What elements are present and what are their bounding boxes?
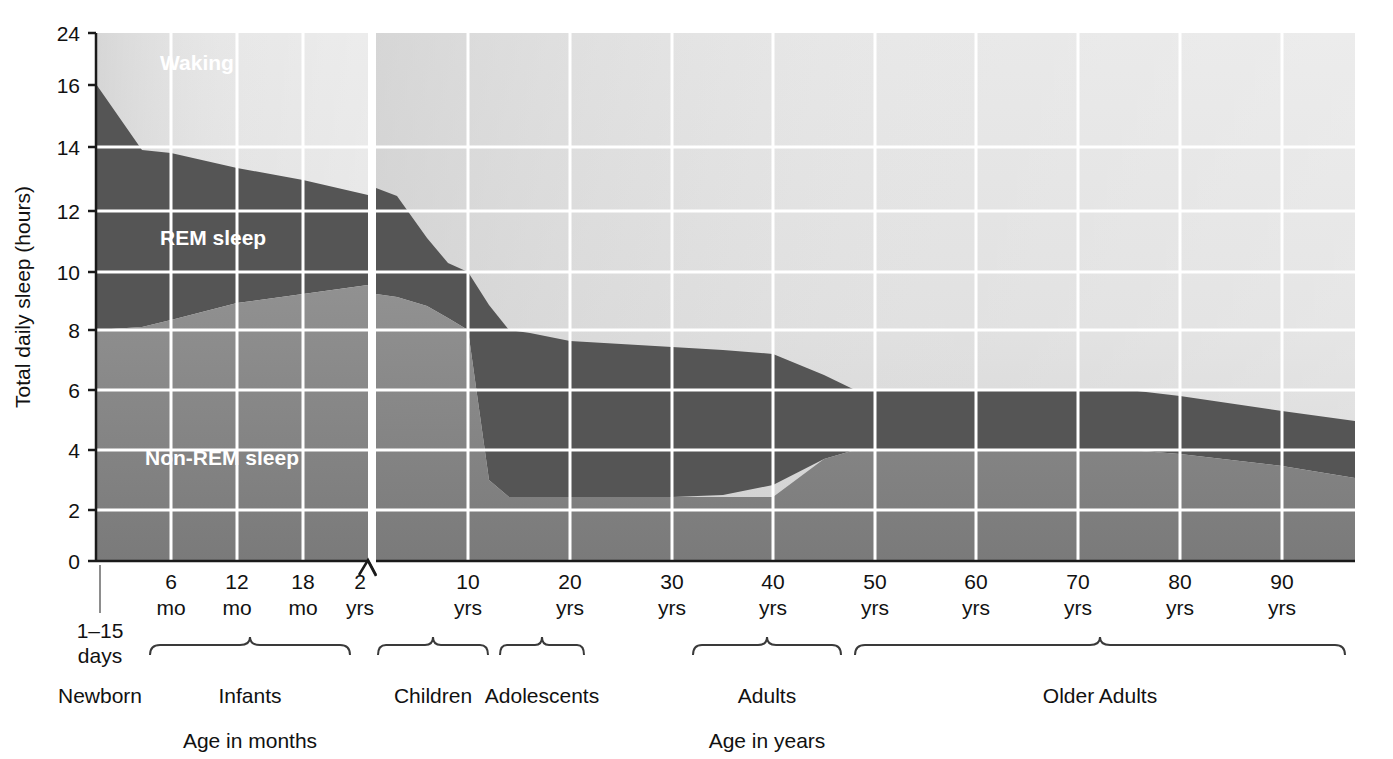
axis-captions: Age in months Age in years (183, 729, 825, 752)
x-tick-18mo-value: 18 (291, 570, 314, 593)
x-tick-30yrs-value: 30 (660, 570, 683, 593)
nonrem-label: Non-REM sleep (145, 446, 299, 469)
x-tick-20yrs-value: 20 (558, 570, 581, 593)
newborn-range-label: 1–15 (77, 619, 124, 642)
newborn-range-unit-label: days (78, 644, 122, 667)
x-tick-50yrs-value: 50 (863, 570, 886, 593)
newborn-annotation: 1–15 days Newborn (58, 565, 142, 707)
bracket-children (378, 637, 488, 655)
waking-label: Waking (160, 51, 234, 74)
x-tick-60yrs-unit: yrs (962, 596, 990, 619)
plot-right-years (376, 33, 1355, 561)
x-tick-70yrs-value: 70 (1066, 570, 1089, 593)
x-tick-70yrs-unit: yrs (1064, 596, 1092, 619)
x-tick-10yrs-value: 10 (456, 570, 479, 593)
axis-break-gap (368, 33, 376, 561)
y-tick-8: 8 (68, 319, 80, 342)
group-label-older-adults: Older Adults (1043, 684, 1157, 707)
group-label-children: Children (394, 684, 472, 707)
x-tick-6mo-value: 6 (165, 570, 177, 593)
x-tick-20yrs-unit: yrs (556, 596, 584, 619)
rem-label: REM sleep (160, 226, 266, 249)
bracket-adolescents (500, 637, 584, 655)
y-tick-10: 10 (57, 261, 80, 284)
x-tick-18mo-unit: mo (288, 596, 317, 619)
y-axis-title: Total daily sleep (hours) (11, 186, 34, 408)
group-label-infants: Infants (218, 684, 281, 707)
y-tick-4: 4 (68, 439, 80, 462)
bracket-older-adults (855, 637, 1345, 655)
y-tick-6: 6 (68, 379, 80, 402)
y-tick-12: 12 (57, 200, 80, 223)
caption-age-in-months: Age in months (183, 729, 317, 752)
y-tick-2: 2 (68, 499, 80, 522)
x-tick-50yrs-unit: yrs (861, 596, 889, 619)
x-tick-90yrs-unit: yrs (1268, 596, 1296, 619)
x-tick-2yrs-unit: yrs (346, 596, 374, 619)
y-tick-24: 24 (57, 22, 81, 45)
x-tick-2yrs-value: 2 (354, 570, 366, 593)
caption-age-in-years: Age in years (709, 729, 826, 752)
x-tick-80yrs-value: 80 (1168, 570, 1191, 593)
x-tick-12mo-unit: mo (222, 596, 251, 619)
y-tick-0: 0 (68, 550, 80, 573)
sleep-lifespan-chart: 24 16 14 12 10 8 6 4 2 0 Total daily sle… (0, 0, 1393, 759)
x-tick-60yrs-value: 60 (964, 570, 987, 593)
group-label-adults: Adults (738, 684, 796, 707)
bracket-infants (150, 637, 350, 655)
bracket-adults (693, 637, 841, 655)
y-tick-16: 16 (57, 74, 80, 97)
plot-left-months (96, 33, 368, 561)
y-tick-14: 14 (57, 136, 81, 159)
age-group-brackets: Infants Children Adolescents Adults Olde… (150, 637, 1345, 707)
newborn-group-label: Newborn (58, 684, 142, 707)
x-tick-12mo-value: 12 (225, 570, 248, 593)
x-tick-labels: 6 mo 12 mo 18 mo 2 yrs 10 yrs 20 yrs 30 … (156, 570, 1296, 619)
x-tick-30yrs-unit: yrs (658, 596, 686, 619)
x-tick-80yrs-unit: yrs (1166, 596, 1194, 619)
x-tick-40yrs-value: 40 (761, 570, 784, 593)
x-tick-6mo-unit: mo (156, 596, 185, 619)
y-tick-labels: 24 16 14 12 10 8 6 4 2 0 (57, 22, 81, 573)
x-tick-90yrs-value: 90 (1270, 570, 1293, 593)
axis-break-mark-right (368, 561, 376, 576)
group-label-adolescents: Adolescents (485, 684, 599, 707)
x-tick-10yrs-unit: yrs (454, 596, 482, 619)
x-tick-40yrs-unit: yrs (759, 596, 787, 619)
chart-svg: 24 16 14 12 10 8 6 4 2 0 Total daily sle… (0, 0, 1393, 759)
plot-areas (96, 33, 1355, 561)
